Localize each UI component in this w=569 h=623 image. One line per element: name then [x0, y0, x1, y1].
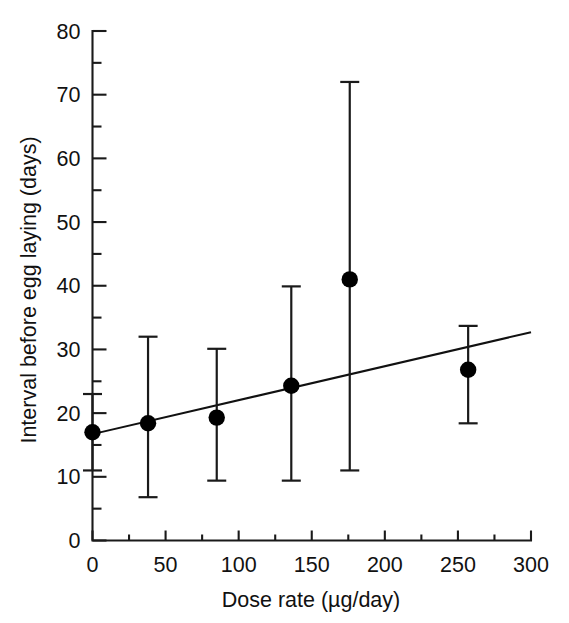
x-axis-title: Dose rate (µg/day): [222, 588, 401, 612]
y-tick-label: 40: [57, 274, 81, 298]
y-axis-title: Interval before egg laying (days): [17, 136, 41, 443]
x-tick-label: 100: [221, 553, 257, 577]
data-point-marker: [342, 271, 358, 287]
data-point-marker: [460, 362, 476, 378]
axis-spines: [93, 31, 532, 541]
x-axis-tick-labels: 050100150200250300: [87, 553, 549, 577]
regression-line: [93, 332, 532, 434]
data-point-marker: [209, 409, 225, 425]
chart-figure: 050100150200250300 01020304050607080 Dos…: [0, 0, 569, 623]
x-tick-label: 300: [513, 553, 549, 577]
y-tick-label: 60: [57, 147, 81, 171]
y-tick-label: 30: [57, 338, 81, 362]
axes: [93, 31, 532, 541]
y-tick-label: 70: [57, 83, 81, 107]
y-tick-label: 0: [69, 529, 81, 553]
y-axis-tick-labels: 01020304050607080: [57, 20, 81, 554]
x-tick-label: 0: [87, 553, 99, 577]
y-tick-label: 10: [57, 465, 81, 489]
regression-fit-line: [93, 332, 532, 434]
data-point-marker: [140, 415, 156, 431]
scatter-plot-with-error-bars: 050100150200250300 01020304050607080 Dos…: [0, 0, 569, 623]
x-axis-ticks: [93, 531, 532, 541]
data-point-marker: [283, 378, 299, 394]
y-tick-label: 20: [57, 402, 81, 426]
y-axis-ticks: [93, 31, 107, 541]
y-tick-label: 50: [57, 211, 81, 235]
y-tick-label: 80: [57, 20, 81, 44]
x-tick-label: 200: [367, 553, 403, 577]
x-tick-label: 150: [294, 553, 330, 577]
x-tick-label: 250: [440, 553, 476, 577]
error-bars: [83, 82, 478, 497]
x-tick-label: 50: [154, 553, 178, 577]
data-point-marker: [84, 424, 100, 440]
data-point-markers: [84, 271, 476, 440]
